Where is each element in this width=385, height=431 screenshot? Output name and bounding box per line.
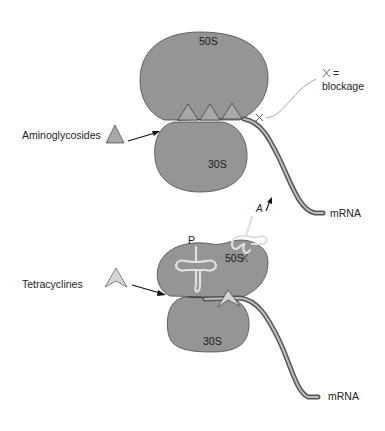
- aminoglycosides-label: Aminoglycosides: [22, 129, 101, 141]
- p-site-label: P: [188, 234, 195, 246]
- antibiotic-ribosome-diagram: 50S 30S Aminoglycosides = blockage mRNA: [0, 0, 385, 431]
- top-panel: 50S 30S Aminoglycosides = blockage mRNA: [22, 32, 364, 219]
- legend-equals: =: [333, 67, 339, 79]
- label-30s-bottom: 30S: [203, 335, 222, 347]
- label-30s-top: 30S: [208, 158, 227, 170]
- legend-connector-line: [266, 79, 316, 118]
- bottom-panel: A 50S 30S P Tetracyclines mRNA: [22, 197, 359, 402]
- bound-aminoglycosides: [178, 103, 242, 120]
- small-subunit-30s-top: [155, 122, 247, 192]
- label-50s-top: 50S: [199, 35, 218, 47]
- blockage-legend: = blockage: [322, 67, 364, 92]
- blockage-marker-top: [256, 114, 263, 121]
- label-50s-bottom: 50S: [225, 252, 244, 264]
- exit-arrow-icon: [266, 197, 272, 211]
- arrowhead-icon: [105, 268, 127, 287]
- mrna-label-top: mRNA: [330, 207, 361, 219]
- mrna-label-bottom: mRNA: [328, 390, 359, 402]
- a-site-label: A: [255, 203, 263, 214]
- triangle-icon: [106, 125, 124, 143]
- tetracyclines-label: Tetracyclines: [22, 278, 83, 290]
- legend-text: blockage: [322, 80, 364, 92]
- arrow-icon: [128, 131, 160, 141]
